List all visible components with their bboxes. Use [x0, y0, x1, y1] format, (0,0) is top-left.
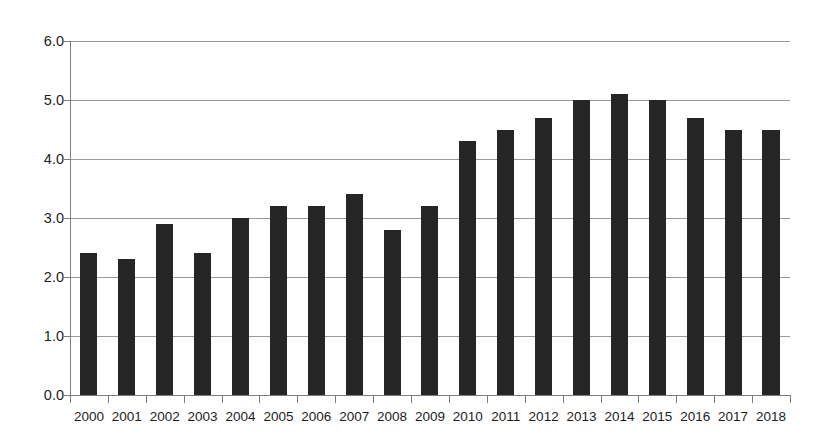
- x-axis-tick: [70, 396, 71, 403]
- bar-slot: [259, 41, 297, 395]
- x-axis-tick-label: 2015: [638, 408, 676, 434]
- x-axis-tick: [487, 396, 488, 403]
- bar[interactable]: [270, 206, 287, 395]
- x-axis-tick: [601, 396, 602, 403]
- x-axis-tick-label: 2001: [108, 408, 146, 434]
- x-axis-tick-label: 2012: [525, 408, 563, 434]
- x-axis-tick: [297, 396, 298, 403]
- y-axis-line: [70, 41, 71, 396]
- bar[interactable]: [687, 118, 704, 395]
- bar[interactable]: [459, 141, 476, 395]
- x-axis-tick-label: 2008: [373, 408, 411, 434]
- y-axis-tick: [64, 277, 70, 278]
- bar[interactable]: [611, 94, 628, 395]
- bar-slot: [373, 41, 411, 395]
- y-axis-tick-label: 5.0: [24, 93, 64, 108]
- y-axis-labels: 0.01.02.03.04.05.06.0: [0, 0, 64, 446]
- bar[interactable]: [535, 118, 552, 395]
- y-axis-tick-label: 3.0: [24, 211, 64, 226]
- bar[interactable]: [384, 230, 401, 395]
- bar-slot: [563, 41, 601, 395]
- y-axis-tick-label: 2.0: [24, 270, 64, 285]
- y-axis-tick: [64, 41, 70, 42]
- bar-slot: [638, 41, 676, 395]
- plot-area: [70, 41, 790, 395]
- bar-slot: [449, 41, 487, 395]
- x-axis-tick: [638, 396, 639, 403]
- bar[interactable]: [308, 206, 325, 395]
- x-axis-tick: [563, 396, 564, 403]
- x-axis-tick: [525, 396, 526, 403]
- x-axis-tick-label: 2002: [146, 408, 184, 434]
- bar[interactable]: [80, 253, 97, 395]
- x-axis-tick-label: 2006: [297, 408, 335, 434]
- y-axis-tick: [64, 159, 70, 160]
- x-axis-tick: [411, 396, 412, 403]
- x-axis-tick-label: 2011: [487, 408, 525, 434]
- bar-slot: [411, 41, 449, 395]
- y-axis-tick: [64, 218, 70, 219]
- y-axis-tick: [64, 100, 70, 101]
- x-axis-tick-label: 2005: [259, 408, 297, 434]
- x-axis-tick-label: 2013: [563, 408, 601, 434]
- bar[interactable]: [573, 100, 590, 395]
- bar[interactable]: [725, 130, 742, 396]
- x-axis-tick: [259, 396, 260, 403]
- bar-slot: [108, 41, 146, 395]
- x-axis-tick: [714, 396, 715, 403]
- bar-slot: [752, 41, 790, 395]
- x-axis-tick-label: 2000: [70, 408, 108, 434]
- x-axis-tick-label: 2004: [222, 408, 260, 434]
- bar-slot: [676, 41, 714, 395]
- bar[interactable]: [421, 206, 438, 395]
- x-axis-tick-label: 2018: [752, 408, 790, 434]
- x-axis-tick: [676, 396, 677, 403]
- y-axis-tick-label: 1.0: [24, 329, 64, 344]
- x-axis-tick-label: 2016: [676, 408, 714, 434]
- x-axis-tick: [373, 396, 374, 403]
- bar[interactable]: [346, 194, 363, 395]
- x-axis-tick-label: 2009: [411, 408, 449, 434]
- bar[interactable]: [649, 100, 666, 395]
- bar[interactable]: [762, 130, 779, 396]
- bar[interactable]: [497, 130, 514, 396]
- x-axis-tick-label: 2007: [335, 408, 373, 434]
- y-axis-tick-label: 4.0: [24, 152, 64, 167]
- x-axis-tick: [790, 396, 791, 403]
- x-axis-tick: [752, 396, 753, 403]
- x-axis-tick: [184, 396, 185, 403]
- bar[interactable]: [156, 224, 173, 395]
- bars-layer: [70, 41, 790, 395]
- bar[interactable]: [118, 259, 135, 395]
- x-axis-tick-label: 2010: [449, 408, 487, 434]
- y-axis-tick-label: 6.0: [24, 34, 64, 49]
- bar-slot: [184, 41, 222, 395]
- bar-slot: [600, 41, 638, 395]
- bar-slot: [487, 41, 525, 395]
- x-axis-labels: 2000200120022003200420052006200720082009…: [70, 408, 790, 434]
- bar-slot: [297, 41, 335, 395]
- bar[interactable]: [232, 218, 249, 395]
- x-axis-tick: [449, 396, 450, 403]
- bar-chart: 0.01.02.03.04.05.06.0 200020012002200320…: [0, 0, 820, 446]
- bar-slot: [146, 41, 184, 395]
- x-axis-tick-label: 2017: [714, 408, 752, 434]
- x-axis-tick: [335, 396, 336, 403]
- x-axis-tick-label: 2003: [184, 408, 222, 434]
- y-axis-tick-label: 0.0: [24, 388, 64, 403]
- bar-slot: [222, 41, 260, 395]
- bar-slot: [525, 41, 563, 395]
- bar-slot: [714, 41, 752, 395]
- y-axis-tick: [64, 336, 70, 337]
- x-axis-tick: [222, 396, 223, 403]
- x-axis-tick-label: 2014: [600, 408, 638, 434]
- bar-slot: [70, 41, 108, 395]
- x-axis-tick: [108, 396, 109, 403]
- x-axis-tick: [146, 396, 147, 403]
- bar-slot: [335, 41, 373, 395]
- bar[interactable]: [194, 253, 211, 395]
- x-axis-ticks: [70, 396, 790, 404]
